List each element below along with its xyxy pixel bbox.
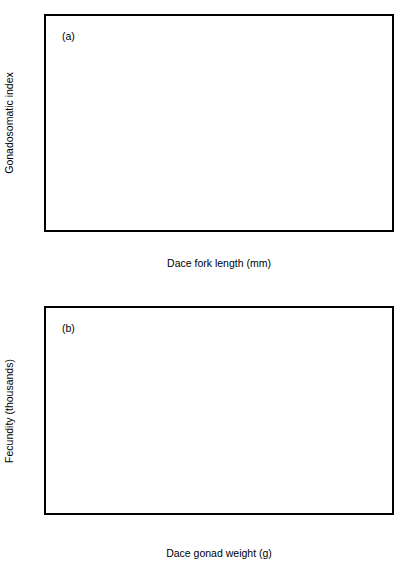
panel-a-svg: (a) Dace fork length (mm) Gonadosomatic …: [0, 0, 410, 285]
panel-a-plot-area: (a) Dace fork length (mm) Gonadosomatic …: [3, 15, 393, 269]
panel-b-plot-area: (b) Dace gonad weight (g) Fecundity (tho…: [3, 307, 393, 559]
panel-a-y-axis-title: Gonadosomatic index: [3, 71, 15, 173]
panel-b-x-axis-title: Dace gonad weight (g): [166, 547, 272, 559]
panel-a-frame: [45, 15, 393, 231]
panel-b-svg: (b) Dace gonad weight (g) Fecundity (tho…: [0, 285, 410, 571]
panel-a-gonadosomatic-index: (a) Dace fork length (mm) Gonadosomatic …: [0, 0, 410, 285]
panel-b-frame: [45, 307, 393, 514]
figure-container: (a) Dace fork length (mm) Gonadosomatic …: [0, 0, 410, 571]
panel-a-label: (a): [62, 30, 75, 42]
panel-b-fecundity: (b) Dace gonad weight (g) Fecundity (tho…: [0, 285, 410, 571]
panel-a-x-axis-title: Dace fork length (mm): [167, 257, 271, 269]
panel-b-label: (b): [62, 322, 75, 334]
panel-b-y-axis-title: Fecundity (thousands): [3, 359, 15, 463]
